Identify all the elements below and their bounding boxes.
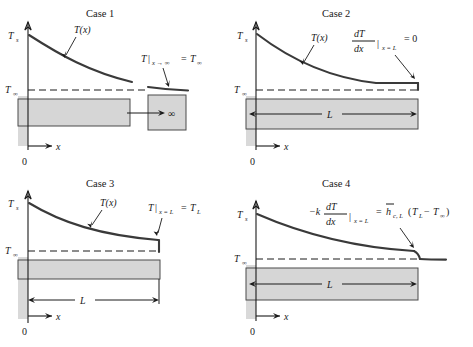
case-2-condition-numerator: dT	[354, 28, 366, 39]
case-4-temperature-curve	[257, 214, 414, 251]
case-1-infinity-label: ∞	[168, 108, 175, 119]
case-4-condition-TL-sub: L	[418, 212, 423, 219]
case-4-tinf-label: T	[234, 253, 241, 264]
case-4-condition: −k dT dx | x = L = h c, L ( T L − T ∞ )	[309, 201, 449, 227]
case-4-ts-sub: s	[245, 215, 248, 222]
case-2-tinf-sub: ∞	[242, 90, 247, 97]
case-2-condition-leader-arrow	[410, 72, 415, 79]
case-1-curve-leader	[66, 37, 76, 55]
case-4-condition-subscript: x = L	[353, 217, 369, 224]
case-3-condition-rhs-sub: L	[196, 208, 201, 215]
case-4-condition-minus: −	[424, 206, 430, 217]
case-1-ts-sub: s	[16, 36, 19, 43]
case-2-condition-denominator: dx	[354, 43, 364, 54]
case-4-condition-h: h	[386, 206, 391, 217]
case-1-temperature-curve	[29, 35, 132, 82]
case-2-curve-leader-arrow	[299, 58, 304, 65]
case-2-panel: Case 2 T s T ∞ x 0 L T	[236, 0, 473, 174]
case-2-curve-label: T(x)	[311, 32, 328, 44]
case-1-condition: T | x → ∞ = T ∞	[141, 53, 202, 66]
case-2-tinf-label: T	[234, 84, 241, 95]
case-2-length-label: L	[326, 109, 333, 120]
case-1-condition-rhs: T	[190, 53, 197, 64]
case-1-curve-label: T(x)	[74, 24, 91, 36]
case-1-title: Case 1	[86, 8, 114, 19]
case-1-ts-label: T	[8, 30, 15, 41]
case-4-tinf-sub: ∞	[242, 259, 247, 266]
case-3-ts-sub: s	[16, 204, 19, 211]
case-3-condition: T | x = L = T L	[148, 202, 201, 215]
case-4-condition-TL: T	[412, 206, 419, 217]
case-3-condition-rhs: T	[190, 202, 197, 213]
case-4-title: Case 4	[322, 178, 351, 189]
case-1-condition-rhs-sub: ∞	[197, 59, 202, 66]
case-3-length-label: L	[79, 295, 86, 306]
case-3-condition-subscript: x = L	[158, 208, 174, 215]
case-2-condition-equals: = 0	[404, 33, 417, 44]
case-4-condition-Tinf-sub: ∞	[440, 212, 445, 219]
case-1-x-label: x	[55, 141, 61, 152]
case-3-curve-leader-arrow	[87, 221, 92, 228]
case-4-condition-bar: |	[349, 211, 351, 222]
case-3-ts-label: T	[8, 198, 15, 209]
case-1-condition-equals: =	[181, 53, 187, 64]
case-2-condition-subscript: x = L	[381, 44, 397, 51]
case-3-condition-leader	[158, 218, 162, 233]
case-2-ts-label: T	[237, 30, 244, 41]
case-3-length-dimension: L	[28, 279, 159, 306]
case-4-tip-convection-drop	[414, 251, 420, 259]
case-3-origin-label: 0	[22, 326, 27, 337]
case-2-curve-leader	[304, 45, 314, 62]
case-4-condition-paren-close: )	[446, 206, 449, 218]
case-1-condition-T: T	[141, 53, 148, 64]
case-3-tinf-label: T	[5, 245, 12, 256]
case-3-curve-label: T(x)	[100, 197, 117, 209]
case-4-fluid-tail	[420, 259, 446, 260]
case-1-fin-body	[18, 99, 130, 126]
case-2-condition: dT dx | x = L = 0	[352, 28, 417, 54]
case-1-origin-label: 0	[22, 156, 27, 167]
case-1-condition-leader	[163, 68, 168, 84]
case-3-temperature-curve	[29, 203, 158, 240]
case-4-condition-denominator: dx	[326, 216, 336, 227]
case-3-condition-T: T	[148, 202, 155, 213]
case-2-x-label: x	[283, 141, 289, 152]
case-4-condition-h-sub: c, L	[393, 212, 403, 219]
case-1-condition-bar: |	[148, 53, 150, 64]
case-1-temperature-curve-tail	[148, 87, 188, 91]
case-4-ts-label: T	[237, 209, 244, 220]
case-4-length-label: L	[326, 279, 333, 290]
case-4-condition-numerator: dT	[326, 201, 338, 212]
case-3-tinf-sub: ∞	[13, 251, 18, 258]
case-1-tinf-label: T	[5, 84, 12, 95]
case-4-condition-equals: =	[376, 206, 382, 217]
case-3-curve-leader	[92, 210, 102, 225]
case-4-condition-minus-k: −k	[309, 206, 321, 217]
case-2-temperature-curve	[257, 34, 418, 83]
case-4-x-label: x	[283, 311, 289, 322]
case-4-condition-Tinf: T	[433, 206, 440, 217]
case-3-x-label: x	[55, 311, 61, 322]
case-1-tinf-sub: ∞	[13, 90, 18, 97]
fin-boundary-condition-figure: Case 1 T s T ∞ x 0	[0, 0, 473, 347]
case-4-panel: Case 4 T s T ∞ x 0 L	[236, 173, 473, 347]
case-3-fin-body	[18, 260, 160, 279]
case-4-origin-label: 0	[250, 326, 255, 337]
case-3-condition-equals: =	[181, 202, 187, 213]
case-2-title: Case 2	[322, 8, 350, 19]
case-3-panel: Case 3 T s T ∞ x 0 L	[0, 173, 237, 347]
case-2-ts-sub: s	[245, 36, 248, 43]
case-1-condition-subscript: x → ∞	[151, 59, 170, 66]
case-3-condition-bar: |	[155, 202, 157, 213]
case-1-panel: Case 1 T s T ∞ x 0	[0, 0, 237, 174]
case-3-title: Case 3	[86, 178, 114, 189]
case-2-condition-bar: |	[377, 38, 379, 49]
case-2-origin-label: 0	[250, 156, 255, 167]
case-4-condition-leader	[400, 228, 412, 245]
case-2-condition-leader	[395, 55, 412, 76]
